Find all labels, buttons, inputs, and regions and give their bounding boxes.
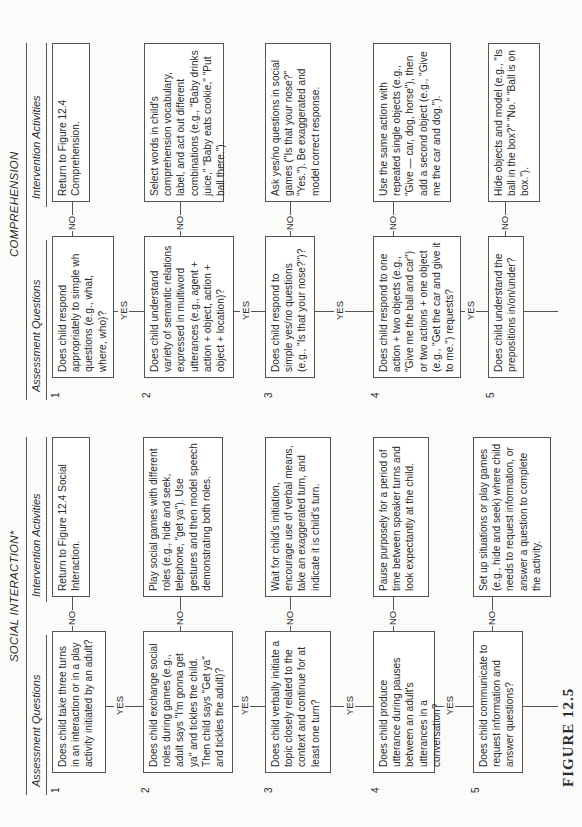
intervention-activity-box: Hide objects and model (e.g., "Is ball i… — [488, 43, 540, 202]
header-rule — [26, 437, 27, 795]
assessment-question-box: Does child understand the prepositions i… — [488, 236, 524, 378]
col-head-intervention: Intervention Activities — [30, 95, 42, 199]
continue-connector — [524, 311, 558, 312]
col-head-intervention: Intervention Activities — [30, 493, 42, 597]
intervention-activity-box: Return to Figure 12.4 Comprehension. — [52, 43, 90, 202]
header-rule — [46, 437, 47, 602]
row-number: 5 — [470, 787, 481, 793]
assessment-question-box: Does child exchange social roles during … — [143, 631, 233, 773]
yes-label: YES — [334, 300, 345, 321]
assessment-question-box: Does child understand variety of semanti… — [144, 236, 234, 378]
assessment-question-box: Does child respond to simple yes/no ques… — [265, 236, 315, 378]
row-number: 4 — [370, 392, 381, 398]
yes-label: YES — [240, 300, 251, 321]
header-rule — [26, 43, 27, 400]
no-label: NO — [66, 610, 77, 626]
no-label: NO — [284, 610, 295, 626]
yes-label: YES — [444, 695, 455, 716]
assessment-question-box: Does child respond appropriately to simp… — [52, 236, 114, 378]
yes-label: YES — [118, 300, 129, 321]
figure-label: FIGURE 12.5 — [560, 688, 577, 787]
no-label: NO — [499, 215, 510, 231]
assessment-question-box: Does child take three turns in an intera… — [52, 631, 106, 773]
yes-label: YES — [239, 695, 250, 716]
yes-label: YES — [114, 695, 125, 716]
intervention-activity-box: Set up situations or play games (e.g., h… — [473, 437, 551, 597]
no-label: NO — [284, 215, 295, 231]
section-title-social-interaction: SOCIAL INTERACTION* — [8, 531, 20, 662]
no-label: NO — [66, 215, 77, 231]
row-number: 3 — [263, 787, 274, 793]
assessment-question-box: Does child communicate to request inform… — [473, 631, 523, 773]
col-head-assessment: Assessment Questions — [30, 280, 42, 393]
intervention-activity-box: Pause purposely for a period of time bet… — [373, 437, 429, 597]
continue-connector — [523, 706, 558, 707]
section-title-comprehension: COMPREHENSION — [8, 152, 20, 257]
no-label: NO — [387, 610, 398, 626]
no-label: NO — [174, 215, 185, 231]
no-label: NO — [174, 610, 185, 626]
header-rule — [46, 635, 47, 795]
intervention-activity-box: Play social games with different roles (… — [143, 437, 223, 597]
row-number: 5 — [485, 392, 496, 398]
header-rule — [46, 240, 47, 400]
assessment-question-box: Does child respond to one action + two o… — [373, 236, 461, 378]
intervention-activity-box: Wait for child's initiation, encourage u… — [265, 437, 331, 597]
header-rule — [46, 43, 47, 207]
assessment-question-box: Does child verbally initiate a topic clo… — [265, 631, 331, 773]
row-number: 4 — [370, 787, 381, 793]
no-label: NO — [486, 610, 497, 626]
intervention-activity-box: Use the same action with repeated single… — [373, 43, 451, 202]
assessment-question-box: Does child produce utterance during paus… — [373, 631, 435, 773]
intervention-activity-box: Return to Figure 12.4 Social Interaction… — [52, 437, 90, 597]
intervention-activity-box: Ask yes/no questions in social games ("I… — [265, 43, 331, 202]
row-number: 1 — [50, 392, 61, 398]
no-label: NO — [387, 215, 398, 231]
rotated-figure-page: SOCIAL INTERACTION* Assessment Questions… — [0, 0, 582, 827]
row-number: 2 — [141, 392, 152, 398]
row-number: 3 — [263, 392, 274, 398]
row-number: 2 — [140, 787, 151, 793]
intervention-activity-box: Select words in child's comprehension vo… — [144, 43, 224, 202]
yes-label: YES — [465, 300, 476, 321]
col-head-assessment: Assessment Questions — [30, 675, 42, 788]
row-number: 1 — [50, 787, 61, 793]
yes-label: YES — [344, 695, 355, 716]
